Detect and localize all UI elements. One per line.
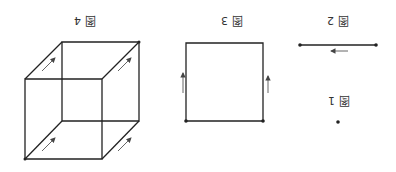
figure-3-arrows [183,73,268,93]
figure-2-segment [298,43,378,51]
figure-4-label: 图 4 [74,14,96,26]
figure-1-point [336,120,340,124]
figure-4-cube [25,42,139,159]
figure-3-square [186,43,263,121]
figure-2-label: 图 2 [327,14,349,26]
figure-1-label: 图 1 [328,94,350,106]
figure-4-arrows [42,58,131,151]
figure-3-label: 图 3 [221,14,243,26]
